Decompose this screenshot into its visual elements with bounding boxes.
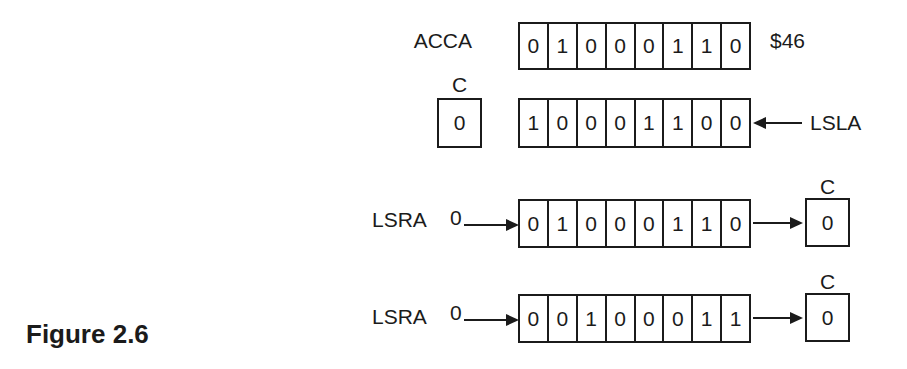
bit-cell: 1 (664, 100, 693, 146)
bit-cell: 0 (693, 100, 722, 146)
acca-label: ACCA (408, 30, 472, 52)
bit-cell: 0 (520, 296, 549, 341)
bit-cell: 0 (549, 296, 578, 341)
bit-cell: 1 (636, 100, 665, 146)
lsla-carry-value: 0 (454, 111, 466, 135)
arrow-line (464, 224, 508, 226)
lsra2-shift-in-value: 0 (450, 302, 462, 324)
lsra1-label: LSRA (372, 209, 427, 231)
arrow-line (753, 317, 791, 319)
arrow-line (464, 319, 508, 321)
arrow-head (790, 312, 803, 324)
lsra2-carry-box: 0 (805, 293, 850, 342)
bit-cell: 0 (636, 24, 665, 68)
arrow-head (790, 217, 803, 229)
lsla-register: 1 0 0 0 1 1 0 0 (518, 98, 751, 148)
bit-cell: 0 (722, 201, 749, 246)
lsla-carry-box: 0 (437, 98, 482, 148)
bit-cell: 1 (549, 201, 578, 246)
bit-cell: 0 (578, 201, 607, 246)
bit-cell: 0 (578, 24, 607, 68)
lsra2-carry-label: C (805, 271, 850, 293)
bit-cell: 1 (664, 201, 693, 246)
bit-cell: 0 (549, 100, 578, 146)
lsra2-label: LSRA (372, 306, 427, 328)
bit-cell: 1 (664, 24, 693, 68)
lsra2-register: 0 0 1 0 0 0 1 1 (518, 294, 751, 343)
lsra1-shift-in-value: 0 (450, 207, 462, 229)
bit-cell: 0 (578, 100, 607, 146)
bit-cell: 1 (693, 296, 722, 341)
bit-cell: 0 (607, 201, 636, 246)
lsra1-carry-box: 0 (805, 198, 850, 247)
arrow-line (753, 222, 791, 224)
bit-cell: 0 (636, 296, 665, 341)
lsra2-carry-value: 0 (822, 306, 834, 330)
bit-cell: 1 (693, 24, 722, 68)
bit-cell: 1 (520, 100, 549, 146)
acca-register: 0 1 0 0 0 1 1 0 (518, 22, 751, 70)
bit-cell: 0 (520, 24, 549, 68)
lsla-carry-label: C (437, 74, 482, 96)
bit-cell: 1 (722, 296, 749, 341)
bit-cell: 0 (607, 296, 636, 341)
lsra1-carry-value: 0 (822, 211, 834, 235)
bit-cell: 0 (722, 100, 749, 146)
lsra1-carry-label: C (805, 176, 850, 198)
bit-cell: 0 (520, 201, 549, 246)
arrow-line (764, 122, 802, 124)
figure-caption: Figure 2.6 (26, 320, 149, 348)
bit-cell: 0 (664, 296, 693, 341)
acca-hex-value: $46 (770, 30, 805, 52)
bit-cell: 0 (722, 24, 749, 68)
bit-cell: 0 (607, 100, 636, 146)
bit-cell: 0 (636, 201, 665, 246)
bit-cell: 1 (549, 24, 578, 68)
lsra1-register: 0 1 0 0 0 1 1 0 (518, 199, 751, 248)
bit-cell: 1 (693, 201, 722, 246)
figure-canvas: ACCA 0 1 0 0 0 1 1 0 $46 C 0 1 0 0 0 1 1… (0, 0, 907, 369)
bit-cell: 1 (578, 296, 607, 341)
lsla-label: LSLA (810, 112, 861, 134)
bit-cell: 0 (607, 24, 636, 68)
